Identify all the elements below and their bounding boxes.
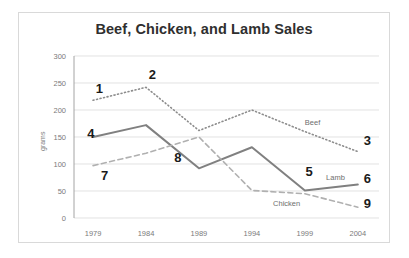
series-line-lamb: [93, 125, 358, 190]
series-line-chicken: [93, 137, 358, 207]
y-tick-label: 100: [53, 160, 66, 169]
x-tick-label: 2004: [349, 229, 366, 238]
annotation-7: 7: [101, 168, 108, 183]
y-tick-label: 150: [53, 133, 66, 142]
series-label-lamb: Lamb: [326, 173, 345, 182]
annotation-6: 6: [364, 171, 371, 186]
x-tick-label: 1999: [297, 229, 314, 238]
line-chart-plot: 050100150200250300grams19791984198919941…: [19, 13, 391, 244]
x-tick-label: 1979: [85, 229, 102, 238]
y-tick-label: 50: [58, 187, 66, 196]
y-tick-label: 250: [53, 79, 66, 88]
annotation-4: 4: [87, 126, 95, 141]
x-tick-label: 1989: [191, 229, 208, 238]
annotation-2: 2: [149, 67, 156, 82]
y-tick-label: 300: [53, 52, 66, 61]
x-tick-label: 1994: [244, 229, 261, 238]
y-axis-title: grams: [39, 131, 47, 151]
annotation-9: 9: [364, 196, 371, 211]
annotation-3: 3: [364, 133, 371, 148]
y-tick-label: 0: [62, 214, 66, 223]
series-label-chicken: Chicken: [273, 199, 300, 208]
annotation-5: 5: [305, 164, 312, 179]
chart-card: Beef, Chicken, and Lamb Sales 0501001502…: [18, 12, 390, 243]
x-tick-label: 1984: [138, 229, 155, 238]
annotation-8: 8: [174, 150, 181, 165]
annotation-1: 1: [96, 81, 103, 96]
y-tick-label: 200: [53, 106, 66, 115]
series-label-beef: Beef: [305, 118, 321, 127]
